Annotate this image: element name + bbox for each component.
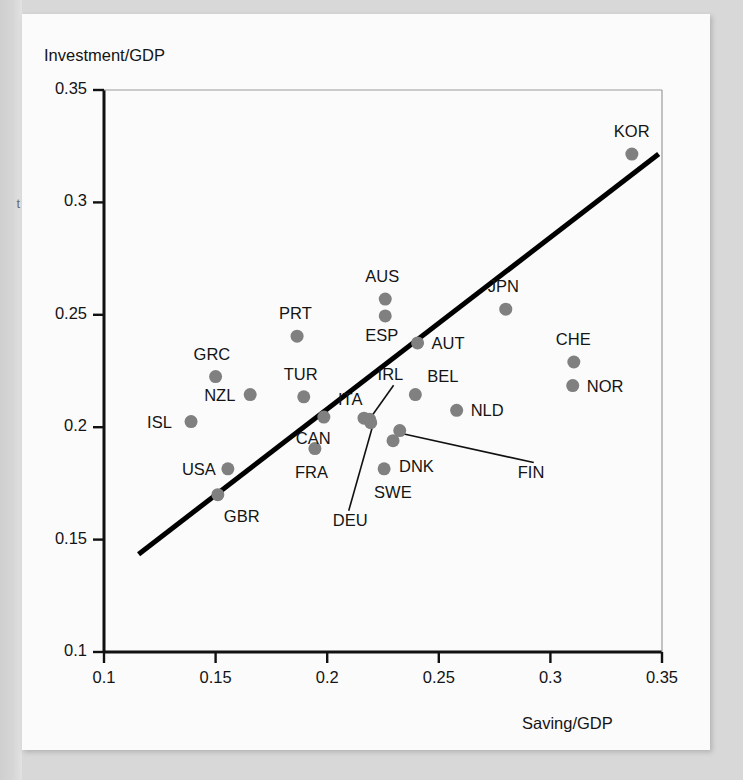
data-point <box>291 330 304 343</box>
y-tick-label: 0.25 <box>22 304 87 323</box>
data-point <box>364 416 377 429</box>
point-label-nor: NOR <box>587 377 624 396</box>
data-point <box>244 388 257 401</box>
point-label-ita: ITA <box>338 390 362 409</box>
data-point <box>211 488 224 501</box>
data-point <box>221 462 234 475</box>
data-point <box>566 379 579 392</box>
y-tick-label: 0.2 <box>22 416 87 435</box>
x-tick-label: 0.25 <box>409 668 469 687</box>
page-gutter <box>0 0 22 780</box>
point-label-jpn: JPN <box>488 277 519 296</box>
point-label-tur: TUR <box>284 365 318 384</box>
data-point <box>209 370 222 383</box>
point-label-bel: BEL <box>427 367 458 386</box>
point-label-fra: FRA <box>295 463 328 482</box>
point-label-usa: USA <box>182 460 216 479</box>
data-point <box>297 390 310 403</box>
data-point <box>185 415 198 428</box>
y-tick-label: 0.15 <box>22 529 87 548</box>
page-root: t Investment/GDP Saving/GDP 0.10.150.20.… <box>0 0 743 780</box>
point-label-fin: FIN <box>518 463 545 482</box>
point-label-swe: SWE <box>374 483 412 502</box>
point-label-kor: KOR <box>614 122 650 141</box>
point-label-esp: ESP <box>365 326 398 345</box>
point-label-aus: AUS <box>365 267 399 286</box>
x-tick-label: 0.1 <box>74 668 134 687</box>
point-label-prt: PRT <box>279 304 312 323</box>
leader-line <box>349 426 373 511</box>
y-tick-label: 0.35 <box>22 79 87 98</box>
data-point <box>411 336 424 349</box>
data-point <box>387 434 400 447</box>
data-point <box>317 411 330 424</box>
data-point <box>625 148 638 161</box>
y-tick-label: 0.1 <box>22 641 87 660</box>
point-label-aut: AUT <box>432 334 465 353</box>
point-label-che: CHE <box>556 330 591 349</box>
x-tick-label: 0.2 <box>297 668 357 687</box>
data-points-layer <box>185 148 639 502</box>
x-tick-label: 0.35 <box>632 668 692 687</box>
data-point <box>450 404 463 417</box>
data-point <box>379 293 392 306</box>
data-point <box>378 462 391 475</box>
point-label-dnk: DNK <box>399 457 434 476</box>
data-point <box>567 356 580 369</box>
data-point <box>409 388 422 401</box>
point-label-isl: ISL <box>147 413 172 432</box>
point-label-nld: NLD <box>471 401 504 420</box>
leader-line <box>372 385 394 416</box>
point-label-grc: GRC <box>194 345 231 364</box>
point-label-irl: IRL <box>378 365 404 384</box>
x-tick-label: 0.15 <box>186 668 246 687</box>
point-label-deu: DEU <box>333 511 368 530</box>
point-label-nzl: NZL <box>204 386 235 405</box>
data-point <box>379 309 392 322</box>
y-tick-label: 0.3 <box>22 191 87 210</box>
figure-card: Investment/GDP Saving/GDP 0.10.150.20.25… <box>22 14 710 750</box>
point-label-gbr: GBR <box>224 507 260 526</box>
margin-note: t <box>2 196 20 211</box>
data-point <box>499 303 512 316</box>
plot-area: Investment/GDP Saving/GDP 0.10.150.20.25… <box>22 14 710 750</box>
point-label-can: CAN <box>296 429 331 448</box>
x-tick-label: 0.3 <box>520 668 580 687</box>
